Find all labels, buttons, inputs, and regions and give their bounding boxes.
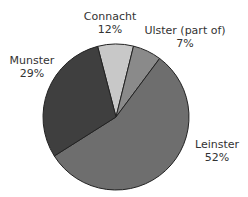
label-ulster-name: Ulster (part of) <box>144 24 226 37</box>
label-munster-name: Munster <box>4 54 60 67</box>
pie-slices <box>43 44 189 190</box>
label-leinster: Leinster 52% <box>190 138 244 164</box>
label-munster: Munster 29% <box>4 54 60 80</box>
label-munster-pct: 29% <box>4 67 60 80</box>
label-ulster: Ulster (part of) 7% <box>144 24 226 50</box>
label-connacht-pct: 12% <box>80 23 140 36</box>
label-connacht: Connacht 12% <box>80 10 140 36</box>
label-ulster-pct: 7% <box>144 37 226 50</box>
label-leinster-name: Leinster <box>190 138 244 151</box>
label-leinster-pct: 52% <box>190 151 244 164</box>
label-connacht-name: Connacht <box>80 10 140 23</box>
